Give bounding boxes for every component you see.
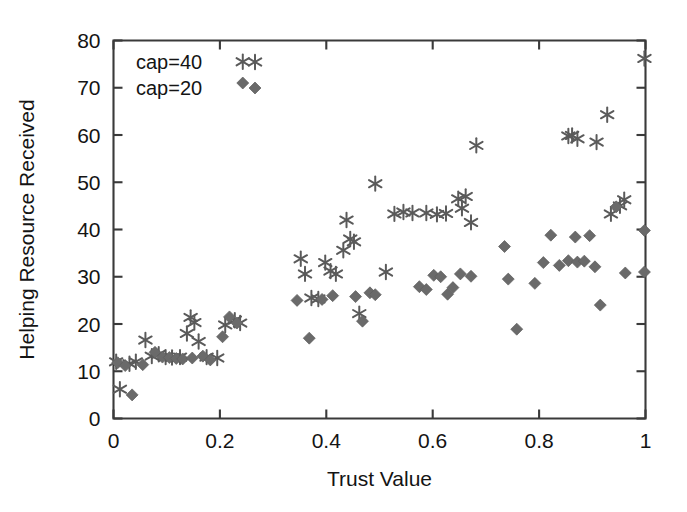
data-point bbox=[465, 215, 477, 229]
legend-marker-diamond bbox=[249, 82, 261, 94]
data-point bbox=[465, 270, 477, 282]
y-tick-label: 10 bbox=[77, 360, 100, 383]
data-point bbox=[327, 290, 339, 302]
data-point bbox=[454, 268, 466, 280]
data-point bbox=[186, 352, 198, 364]
data-point bbox=[589, 261, 601, 273]
data-point bbox=[340, 213, 352, 227]
data-point bbox=[594, 299, 606, 311]
data-point bbox=[380, 265, 392, 279]
x-axis-title: Trust Value bbox=[327, 467, 432, 490]
y-tick-label: 60 bbox=[77, 124, 100, 147]
legend-label-2: cap=20 bbox=[136, 77, 202, 99]
data-point bbox=[440, 206, 452, 220]
data-point bbox=[590, 135, 602, 149]
y-tick-label: 0 bbox=[89, 407, 101, 430]
series-cap-20 bbox=[112, 77, 651, 401]
data-point bbox=[584, 230, 596, 242]
data-point bbox=[569, 231, 581, 243]
data-point bbox=[237, 55, 249, 69]
y-tick-label: 80 bbox=[77, 29, 100, 52]
x-tick-label: 1 bbox=[640, 429, 652, 452]
y-axis-title: Helping Resource Received bbox=[15, 99, 38, 359]
data-point bbox=[192, 334, 204, 348]
x-tick-label: 0.8 bbox=[524, 429, 553, 452]
data-point bbox=[139, 333, 151, 347]
data-point bbox=[291, 294, 303, 306]
data-point bbox=[638, 224, 650, 236]
data-point bbox=[619, 267, 631, 279]
data-point bbox=[299, 267, 311, 281]
x-tick-label: 0.6 bbox=[418, 429, 447, 452]
series-cap-40 bbox=[110, 51, 651, 396]
x-tick-label: 0.4 bbox=[312, 429, 342, 452]
data-point bbox=[126, 389, 138, 401]
data-point bbox=[303, 332, 315, 344]
data-point bbox=[356, 315, 368, 327]
data-point bbox=[181, 326, 193, 340]
chart-canvas: 0102030405060708000.20.40.60.81 cap=40ca… bbox=[0, 0, 687, 512]
y-tick-label: 20 bbox=[77, 313, 100, 336]
data-points-group bbox=[110, 51, 651, 401]
y-tick-label: 70 bbox=[77, 76, 100, 99]
x-tick-label: 0.2 bbox=[205, 429, 234, 452]
data-point bbox=[511, 323, 523, 335]
data-point bbox=[545, 229, 557, 241]
data-point bbox=[499, 241, 511, 253]
data-point bbox=[537, 257, 549, 269]
data-point bbox=[601, 107, 613, 121]
x-tick-label: 0 bbox=[108, 429, 120, 452]
data-point bbox=[369, 176, 381, 190]
data-point bbox=[470, 138, 482, 152]
data-point bbox=[114, 382, 126, 396]
scatter-chart-figure: 0102030405060708000.20.40.60.81 cap=40ca… bbox=[0, 0, 687, 512]
data-point bbox=[529, 277, 541, 289]
legend-label-1: cap=40 bbox=[136, 51, 202, 73]
data-point bbox=[638, 51, 650, 65]
data-point bbox=[217, 331, 229, 343]
data-point bbox=[295, 252, 307, 266]
y-tick-label: 40 bbox=[77, 218, 100, 241]
y-tick-label: 50 bbox=[77, 171, 100, 194]
data-point bbox=[350, 291, 362, 303]
legend-marker-asterisk bbox=[249, 55, 261, 69]
y-tick-label: 30 bbox=[77, 265, 100, 288]
data-point bbox=[406, 206, 418, 220]
data-point bbox=[502, 273, 514, 285]
data-point bbox=[237, 77, 249, 89]
